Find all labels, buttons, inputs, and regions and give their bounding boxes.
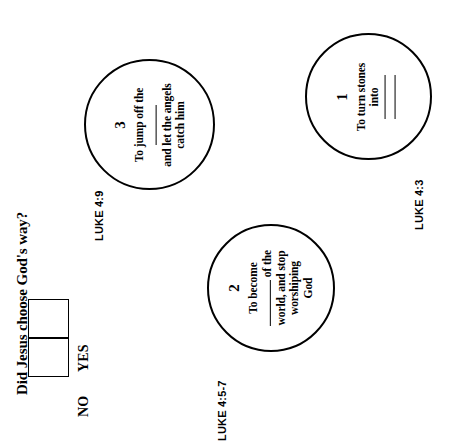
temptation-2-line-3: world, and stop: [274, 251, 286, 326]
temptation-3-line-3: catch him: [173, 101, 185, 148]
checkbox-label-no: NO: [76, 396, 92, 417]
fill-in-blank-line[interactable]: [383, 75, 385, 119]
fill-in-blank-line[interactable]: [260, 280, 271, 326]
temptation-circle-1-content: 1 To turn stones into: [334, 38, 403, 156]
fill-in-blank-line[interactable]: [393, 75, 395, 119]
temptation-circle-2-content: 2 To become of the world, and stop worsh…: [227, 229, 315, 347]
temptation-3-line-2: and let the angels: [160, 83, 172, 167]
temptation-text-2: To become of the world, and stop worship…: [247, 229, 316, 347]
temptation-2-line-1: To become: [247, 262, 259, 313]
checkbox-label-yes: YES: [76, 344, 92, 372]
scripture-reference-1: LUKE 4:3: [413, 180, 425, 231]
checkbox-yes[interactable]: [28, 299, 69, 338]
temptation-1-line-2: into: [367, 87, 379, 106]
temptation-text-1: To turn stones into: [354, 38, 395, 156]
temptation-circle-3-content: 3 To jump off the and let the angels cat…: [112, 66, 187, 184]
temptation-circle-1: 1 To turn stones into: [305, 33, 432, 160]
temptation-2-line-5: God: [302, 278, 314, 299]
worksheet-page: 1 To turn stones into LUKE 4:3 2 To beco…: [0, 0, 460, 448]
fill-in-blank-line[interactable]: [145, 105, 156, 145]
temptation-3-line-1: To jump off the: [132, 87, 144, 161]
temptation-number-3: 3: [112, 66, 128, 184]
scripture-reference-2: LUKE 4:5-7: [216, 380, 228, 441]
temptation-number-2: 2: [227, 229, 243, 347]
temptation-2-line-4: worshiping: [288, 261, 300, 315]
temptation-circle-2: 2 To become of the world, and stop worsh…: [207, 224, 335, 352]
scripture-reference-3: LUKE 4:9: [93, 191, 105, 242]
temptation-1-line-1: To turn stones: [354, 62, 366, 130]
temptation-1-blank-stack[interactable]: [383, 38, 395, 156]
checkbox-no[interactable]: [28, 338, 69, 377]
temptation-2-line-2: of the: [261, 250, 273, 277]
temptation-number-1: 1: [334, 38, 350, 156]
temptation-circle-3: 3 To jump off the and let the angels cat…: [84, 59, 215, 190]
temptation-text-3: To jump off the and let the angels catch…: [132, 66, 187, 184]
